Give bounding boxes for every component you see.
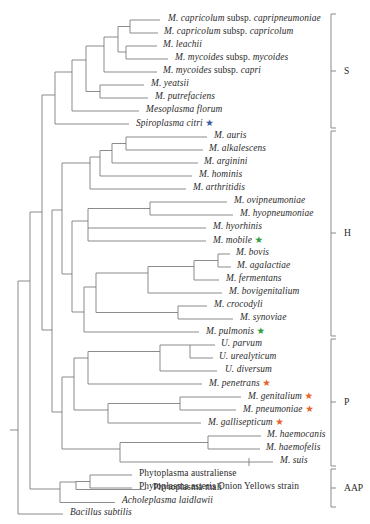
taxon-m-synoviae: M. synoviae bbox=[240, 313, 286, 322]
taxon-name: M. capricolum bbox=[164, 26, 221, 36]
taxon-m-bovis: M. bovis bbox=[236, 248, 269, 257]
star-marker-green: ★ bbox=[254, 235, 263, 245]
taxon-m-haemocanis: M. haemocanis bbox=[267, 430, 326, 439]
taxon-m-hyopneumoniae: M. hyopneumoniae bbox=[240, 209, 313, 218]
taxon-name: U. urealyticum bbox=[219, 351, 276, 361]
taxon-connector: subsp. bbox=[221, 26, 250, 36]
taxon-m-penetrans: M. penetrans★ bbox=[209, 378, 271, 388]
taxon-m-ovipneumoniae: M. ovipneumoniae bbox=[234, 196, 305, 205]
taxon-epithet: mycoides bbox=[253, 52, 289, 62]
taxon-name: M. arginini bbox=[204, 156, 247, 166]
taxon-m-putrefaciens: M. putrefaciens bbox=[155, 92, 215, 101]
taxon-name: M. bovis bbox=[236, 247, 269, 257]
taxon-epithet: capri bbox=[241, 65, 261, 75]
group-label-p: P bbox=[344, 397, 349, 407]
taxon-m-gallisepticum: M. gallisepticum★ bbox=[208, 417, 284, 427]
taxon-connector: subsp. bbox=[223, 52, 252, 62]
taxon-name: M. hominis bbox=[199, 169, 242, 179]
taxon-name: M. fermentans bbox=[226, 273, 281, 283]
taxon-m-suis: M. suis bbox=[280, 456, 308, 465]
group-label-h: H bbox=[344, 228, 351, 238]
taxon-m-genitalium: M. genitalium★ bbox=[248, 391, 313, 401]
star-marker-orange: ★ bbox=[304, 391, 313, 401]
taxon-m-hominis: M. hominis bbox=[199, 170, 242, 179]
taxon-m-pulmonis: M. pulmonis★ bbox=[206, 326, 265, 336]
taxon-name: M. mobile bbox=[213, 235, 252, 245]
taxon-acholeplasma-laidlawii: Acholeplasma laidlawii bbox=[122, 496, 213, 505]
taxon-name: M. leachii bbox=[163, 39, 202, 49]
taxon-name: M. crocodyli bbox=[214, 299, 263, 309]
phylogenetic-tree-figure: M. capricolum subsp. capripneumoniaeM. c… bbox=[0, 0, 370, 524]
taxon-epithet: capricolum bbox=[250, 26, 294, 36]
taxon-m-capricolum-capripneumoniae: M. capricolum subsp. capripneumoniae bbox=[168, 14, 321, 23]
star-marker-blue: ★ bbox=[205, 118, 214, 128]
taxon-name: M. alkalescens bbox=[209, 143, 266, 153]
taxon-name: M. mycoides bbox=[175, 52, 223, 62]
taxon-name: M. arthritidis bbox=[193, 182, 245, 192]
taxon-name: M. agalactiae bbox=[237, 260, 290, 270]
taxon-name: M. pulmonis bbox=[206, 326, 254, 336]
taxon-name: Mesoplasma florum bbox=[146, 104, 222, 114]
taxon-m-agalactiae: M. agalactiae bbox=[237, 261, 290, 270]
taxon-u-parvum: U. parvum bbox=[221, 339, 262, 348]
taxon-name: Acholeplasma laidlawii bbox=[122, 495, 213, 505]
taxon-name: M. mycoides bbox=[163, 65, 211, 75]
taxon-m-arginini: M. arginini bbox=[204, 157, 247, 166]
star-marker-orange: ★ bbox=[305, 404, 314, 414]
taxon-m-leachii: M. leachii bbox=[163, 40, 202, 49]
taxon-name: M. suis bbox=[280, 455, 308, 465]
star-marker-orange: ★ bbox=[275, 417, 284, 427]
group-label-aap: AAP bbox=[344, 483, 363, 493]
taxon-name: M. auris bbox=[214, 130, 247, 140]
taxon-u-diversum: U. diversum bbox=[225, 365, 272, 374]
taxon-name: M. bovigenitalium bbox=[229, 286, 299, 296]
taxon-name: U. parvum bbox=[221, 338, 262, 348]
taxon-connector: subsp. bbox=[225, 13, 254, 23]
taxon-m-capricolum-capricolum: M. capricolum subsp. capricolum bbox=[164, 27, 293, 36]
taxon-name: M. yeatsii bbox=[151, 78, 189, 88]
taxon-m-mobile: M. mobile★ bbox=[213, 235, 263, 245]
taxon-bacillus-subtilis: Bacillus subtilis bbox=[70, 508, 132, 517]
taxon-name: U. diversum bbox=[225, 364, 272, 374]
taxon-name: M. hyorhinis bbox=[213, 221, 262, 231]
taxon-m-haemofelis: M. haemofelis bbox=[266, 443, 320, 452]
bracket-group-p bbox=[331, 339, 336, 466]
taxon-m-yeatsii: M. yeatsii bbox=[151, 79, 189, 88]
taxon-spiroplasma-citri: Spiroplasma citri★ bbox=[136, 118, 214, 128]
taxon-m-bovigenitalium: M. bovigenitalium bbox=[229, 287, 299, 296]
taxon-name: Spiroplasma citri bbox=[136, 118, 203, 128]
taxon-m-fermentans: M. fermentans bbox=[226, 274, 281, 283]
taxon-phytoplasma-australiense: Phytoplasma australiense bbox=[139, 469, 236, 478]
taxon-mesoplasma-florum: Mesoplasma florum bbox=[146, 105, 222, 114]
star-marker-orange: ★ bbox=[262, 378, 271, 388]
taxon-epithet: capripneumoniae bbox=[254, 13, 321, 23]
taxon-name: M. capricolum bbox=[168, 13, 225, 23]
taxon-name: M. putrefaciens bbox=[155, 91, 215, 101]
taxon-u-urealyticum: U. urealyticum bbox=[219, 352, 276, 361]
taxon-name: Bacillus subtilis bbox=[70, 507, 132, 517]
taxon-name: M. hyopneumoniae bbox=[240, 208, 313, 218]
group-label-s: S bbox=[344, 66, 349, 76]
taxon-m-mycoides-capri: M. mycoides subsp. capri bbox=[163, 66, 261, 75]
taxon-name: M. pneumoniae bbox=[243, 404, 303, 414]
taxon-m-arthritidis: M. arthritidis bbox=[193, 183, 245, 192]
taxon-name: Phytoplasma mali bbox=[153, 482, 222, 492]
taxon-name: M. penetrans bbox=[209, 378, 260, 388]
taxon-name: M. gallisepticum bbox=[208, 417, 273, 427]
taxon-m-auris: M. auris bbox=[214, 131, 247, 140]
taxon-m-mycoides-mycoides: M. mycoides subsp. mycoides bbox=[175, 53, 288, 62]
taxon-m-pneumoniae: M. pneumoniae★ bbox=[243, 404, 314, 414]
bracket-group-h bbox=[331, 131, 336, 336]
taxon-name: M. haemofelis bbox=[266, 442, 320, 452]
star-marker-green: ★ bbox=[256, 326, 265, 336]
taxon-name: M. synoviae bbox=[240, 312, 286, 322]
taxon-name: M. haemocanis bbox=[267, 429, 326, 439]
taxon-name: Phytoplasma australiense bbox=[139, 468, 236, 478]
taxon-m-alkalescens: M. alkalescens bbox=[209, 144, 266, 153]
taxon-connector: subsp. bbox=[211, 65, 240, 75]
taxon-name: M. genitalium bbox=[248, 391, 302, 401]
taxon-m-crocodyli: M. crocodyli bbox=[214, 300, 263, 309]
taxon-m-hyorhinis: M. hyorhinis bbox=[213, 222, 262, 231]
taxon-phytoplasma-mali: Phytoplasma mali bbox=[153, 483, 222, 492]
taxon-name: M. ovipneumoniae bbox=[234, 195, 305, 205]
